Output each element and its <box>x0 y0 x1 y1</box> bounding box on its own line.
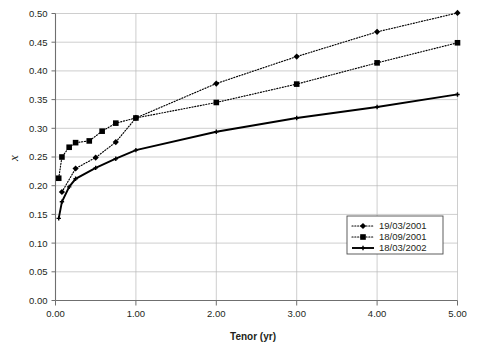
y-tick-label: 0.05 <box>29 266 48 277</box>
data-markers <box>56 10 461 221</box>
x-tick-label: 3.00 <box>287 308 306 319</box>
square-marker <box>455 40 461 46</box>
legend-label-2: 18/09/2001 <box>379 231 427 242</box>
square-marker <box>99 128 105 134</box>
square-marker <box>86 138 92 144</box>
y-tick-label: 0.20 <box>29 180 48 191</box>
cross-marker <box>455 92 459 96</box>
x-tick-label: 4.00 <box>368 308 387 319</box>
x-tick-label: 2.00 <box>207 308 226 319</box>
x-axis-tick-labels: 0.001.002.003.004.005.00 <box>46 308 467 319</box>
y-tick-label: 0.40 <box>29 65 48 76</box>
square-marker <box>294 81 300 87</box>
y-tick-label: 0.50 <box>29 8 48 19</box>
x-tick-label: 5.00 <box>448 308 467 319</box>
cross-marker <box>57 216 61 220</box>
diamond-marker <box>213 80 219 86</box>
square-marker <box>374 60 380 66</box>
cross-marker <box>375 105 379 109</box>
square-marker <box>214 100 220 106</box>
legend-label-1: 19/03/2001 <box>379 220 427 231</box>
cross-marker <box>214 130 218 134</box>
chart-container: 0.000.050.100.150.200.250.300.350.400.45… <box>0 0 478 351</box>
y-axis-title: x <box>6 155 21 162</box>
y-axis-tick-labels: 0.000.050.100.150.200.250.300.350.400.45… <box>29 8 48 306</box>
x-axis-ticks <box>56 301 458 306</box>
diamond-marker <box>73 165 79 171</box>
legend-items: 19/03/200118/09/200118/03/2002 <box>352 220 427 253</box>
x-tick-label: 0.00 <box>46 308 65 319</box>
y-tick-label: 0.00 <box>29 295 48 306</box>
legend-label-3: 18/03/2002 <box>379 242 427 253</box>
y-tick-label: 0.45 <box>29 37 48 48</box>
data-series <box>59 13 458 218</box>
diamond-marker <box>454 10 460 16</box>
square-marker <box>66 144 72 150</box>
y-tick-label: 0.35 <box>29 94 48 105</box>
y-tick-label: 0.15 <box>29 209 48 220</box>
line-chart: 0.000.050.100.150.200.250.300.350.400.45… <box>0 0 478 351</box>
y-axis-ticks <box>52 14 56 301</box>
square-marker <box>73 140 79 146</box>
square-marker <box>56 175 62 181</box>
diamond-marker <box>294 53 300 59</box>
y-tick-label: 0.25 <box>29 151 48 162</box>
square-marker <box>113 120 119 126</box>
square-marker <box>360 234 366 240</box>
diamond-marker <box>59 189 65 195</box>
square-marker <box>133 115 139 121</box>
y-tick-label: 0.10 <box>29 238 48 249</box>
x-axis-title: Tenor (yr) <box>230 331 276 342</box>
square-marker <box>59 154 65 160</box>
chart-legend[interactable]: 19/03/200118/09/200118/03/2002 <box>347 216 443 254</box>
y-tick-label: 0.30 <box>29 123 48 134</box>
diamond-marker <box>374 29 380 35</box>
series-line-1 <box>62 13 458 192</box>
x-tick-label: 1.00 <box>127 308 146 319</box>
cross-marker <box>295 116 299 120</box>
series-line-3 <box>59 94 458 218</box>
